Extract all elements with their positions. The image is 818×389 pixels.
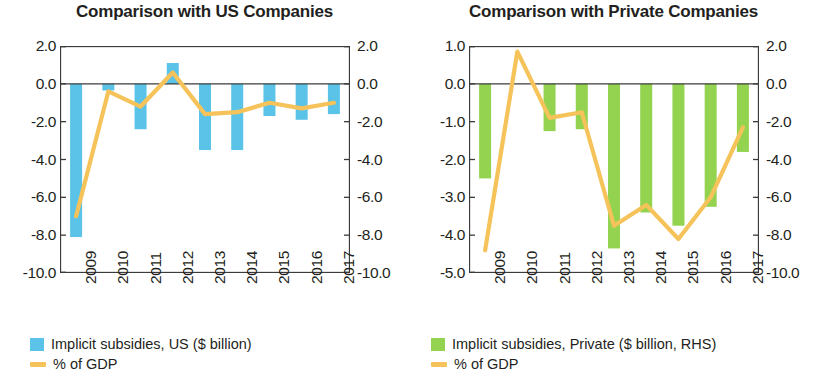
- y-tick-left-0.0: 0.0: [0, 75, 56, 93]
- x-tick-2011: 2011: [556, 252, 574, 284]
- y-tick-right--6.0: -6.0: [357, 188, 382, 206]
- chart-svg-private: [469, 46, 759, 273]
- bar-2015: [672, 84, 684, 226]
- y-tick-left--10.0: -10.0: [0, 264, 56, 282]
- y-tick-left-0.0: 0.0: [409, 75, 465, 93]
- y-tick-right-0.0: 0.0: [766, 75, 786, 93]
- y-tick-right--2.0: -2.0: [766, 113, 791, 131]
- y-tick-right--8.0: -8.0: [357, 226, 382, 244]
- x-tick-2014: 2014: [243, 251, 261, 284]
- chart-panel-us: Comparison with US Companies 2.00.0-2.0-…: [0, 0, 409, 389]
- legend-label: Implicit subsidies, Private ($ billion, …: [452, 337, 716, 352]
- y-tick-left--5.0: -5.0: [409, 264, 465, 282]
- legend-us: Implicit subsidies, US ($ billion)% of G…: [30, 334, 252, 374]
- y-tick-right--4.0: -4.0: [357, 151, 382, 169]
- x-tick-2014: 2014: [652, 251, 670, 284]
- y-tick-left-1.0: 1.0: [409, 37, 465, 55]
- y-tick-right--10.0: -10.0: [357, 264, 390, 282]
- y-tick-right--4.0: -4.0: [766, 151, 791, 169]
- bar-2017: [328, 84, 340, 114]
- x-tick-2012: 2012: [588, 251, 606, 284]
- bar-2013: [199, 84, 211, 150]
- y-tick-right--6.0: -6.0: [766, 188, 791, 206]
- legend-line-swatch-icon: [30, 362, 46, 367]
- y-tick-right-2.0: 2.0: [357, 37, 377, 55]
- y-tick-right--2.0: -2.0: [357, 113, 382, 131]
- y-tick-left--4.0: -4.0: [0, 151, 56, 169]
- x-tick-2015: 2015: [684, 251, 702, 284]
- bar-2017: [737, 84, 749, 152]
- x-tick-2011: 2011: [147, 252, 165, 284]
- bar-2015: [263, 84, 275, 116]
- bar-2014: [640, 84, 652, 213]
- y-tick-left--4.0: -4.0: [409, 226, 465, 244]
- legend-label: % of GDP: [454, 357, 518, 372]
- bar-2009: [479, 84, 491, 179]
- x-tick-2009: 2009: [491, 251, 509, 284]
- x-tick-2016: 2016: [308, 251, 326, 284]
- x-tick-2016: 2016: [717, 251, 735, 284]
- legend-bar-swatch-icon: [30, 338, 44, 351]
- y-tick-left--8.0: -8.0: [0, 226, 56, 244]
- legend-label: % of GDP: [53, 357, 117, 372]
- y-tick-right--10.0: -10.0: [766, 264, 799, 282]
- legend-item-0[interactable]: Implicit subsidies, Private ($ billion, …: [431, 334, 716, 354]
- legend-line-swatch-icon: [431, 362, 447, 367]
- chart-title-us: Comparison with US Companies: [0, 2, 409, 22]
- chart-svg-us: [60, 46, 350, 273]
- y-tick-left--3.0: -3.0: [409, 188, 465, 206]
- legend-item-1[interactable]: % of GDP: [30, 354, 252, 374]
- x-tick-2013: 2013: [211, 251, 229, 284]
- legend-private: Implicit subsidies, Private ($ billion, …: [431, 334, 716, 374]
- x-tick-2017: 2017: [749, 251, 767, 284]
- legend-item-0[interactable]: Implicit subsidies, US ($ billion): [30, 334, 252, 354]
- bar-2016: [296, 84, 308, 120]
- x-tick-2012: 2012: [179, 251, 197, 284]
- y-tick-right--8.0: -8.0: [766, 226, 791, 244]
- x-tick-2015: 2015: [275, 251, 293, 284]
- legend-item-1[interactable]: % of GDP: [431, 354, 716, 374]
- x-tick-2010: 2010: [523, 251, 541, 284]
- dual-chart-figure: Comparison with US Companies 2.00.0-2.0-…: [0, 0, 818, 389]
- y-tick-left--1.0: -1.0: [409, 113, 465, 131]
- plot-area-private: [469, 46, 759, 273]
- y-tick-left-2.0: 2.0: [0, 37, 56, 55]
- x-tick-2009: 2009: [82, 251, 100, 284]
- x-tick-2013: 2013: [620, 251, 638, 284]
- y-tick-right-0.0: 0.0: [357, 75, 377, 93]
- x-tick-2017: 2017: [340, 251, 358, 284]
- y-tick-left--6.0: -6.0: [0, 188, 56, 206]
- chart-title-private: Comparison with Private Companies: [409, 2, 818, 22]
- x-tick-2010: 2010: [114, 251, 132, 284]
- y-tick-right-2.0: 2.0: [766, 37, 786, 55]
- y-tick-left--2.0: -2.0: [409, 151, 465, 169]
- y-tick-left--2.0: -2.0: [0, 113, 56, 131]
- bar-2014: [231, 84, 243, 150]
- plot-area-us: [60, 46, 350, 273]
- legend-bar-swatch-icon: [431, 338, 445, 351]
- chart-panel-private: Comparison with Private Companies 1.00.0…: [409, 0, 818, 389]
- legend-label: Implicit subsidies, US ($ billion): [51, 337, 252, 352]
